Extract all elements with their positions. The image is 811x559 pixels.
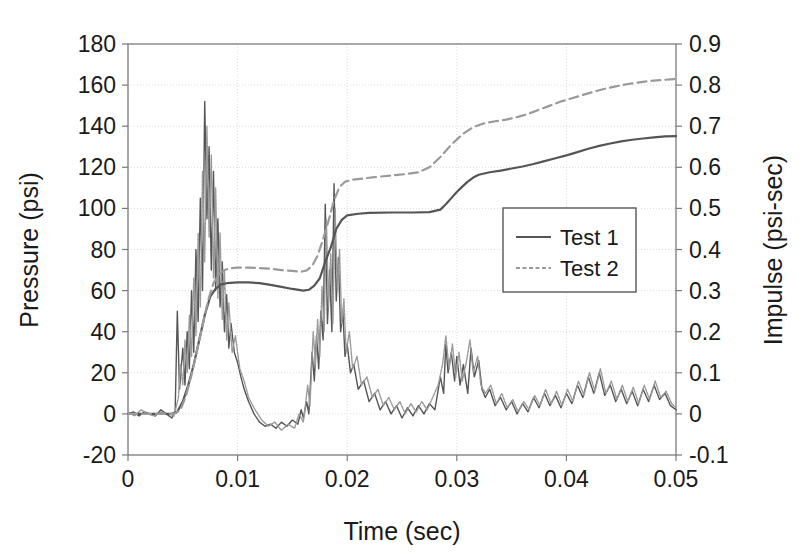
y-tick-label: 40 <box>90 319 116 345</box>
y2-tick-label: 0.8 <box>689 72 721 98</box>
y2-tick-label: 0.6 <box>689 154 721 180</box>
x-tick-label: 0 <box>122 466 135 492</box>
y-tick-label: 120 <box>78 154 116 180</box>
y-tick-label: 140 <box>78 113 116 139</box>
legend-label-test-2: Test 2 <box>560 256 619 281</box>
y-axis-left-title: Pressure (psi) <box>15 172 43 328</box>
chart-canvas: -20020406080100120140160180 -0.100.10.20… <box>0 0 811 559</box>
y-tick-label: 80 <box>90 237 116 263</box>
legend[interactable]: Test 1 Test 2 <box>503 208 636 292</box>
x-tick-label: 0.04 <box>544 466 589 492</box>
y-tick-label: -20 <box>83 442 116 468</box>
y-tick-label: 0 <box>103 401 116 427</box>
y-tick-label: 60 <box>90 278 116 304</box>
y-tick-label: 160 <box>78 72 116 98</box>
y2-tick-label: 0.3 <box>689 278 721 304</box>
y2-tick-label: 0.9 <box>689 31 721 57</box>
legend-label-test-1: Test 1 <box>560 225 619 250</box>
y2-tick-label: 0.2 <box>689 319 721 345</box>
y-tick-label: 20 <box>90 360 116 386</box>
x-tick-label: 0.05 <box>654 466 699 492</box>
y2-tick-label: 0 <box>689 401 702 427</box>
y-tick-label: 100 <box>78 195 116 221</box>
y2-tick-label: -0.1 <box>689 442 729 468</box>
y2-tick-label: 0.4 <box>689 237 721 263</box>
x-tick-label: 0.01 <box>215 466 260 492</box>
y-tick-label: 180 <box>78 31 116 57</box>
x-tick-label: 0.03 <box>434 466 479 492</box>
y-axis-right-title: Impulse (psi-sec) <box>759 155 787 345</box>
y2-tick-label: 0.7 <box>689 113 721 139</box>
y2-tick-label: 0.5 <box>689 195 721 221</box>
x-tick-label: 0.02 <box>325 466 370 492</box>
pressure-impulse-chart: -20020406080100120140160180 -0.100.10.20… <box>0 0 811 559</box>
y2-tick-label: 0.1 <box>689 360 721 386</box>
x-axis-title: Time (sec) <box>343 517 460 545</box>
